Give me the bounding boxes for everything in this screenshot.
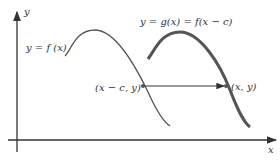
point-start xyxy=(141,84,145,88)
curve-g-label: y = g(x) = f(x − c) xyxy=(140,17,232,27)
x-axis-label: x xyxy=(268,145,274,155)
curve-f xyxy=(65,30,170,126)
curve-f-label: y = f (x) xyxy=(26,43,67,53)
shift-diagram: y x y = f (x) y = g(x) = f(x − c) (x − c… xyxy=(0,0,280,160)
curve-g xyxy=(148,32,250,127)
y-axis-label: y xyxy=(24,7,30,17)
point-end-label: (x, y) xyxy=(231,82,256,92)
point-start-label: (x − c, y) xyxy=(95,83,141,93)
point-end xyxy=(224,84,228,88)
